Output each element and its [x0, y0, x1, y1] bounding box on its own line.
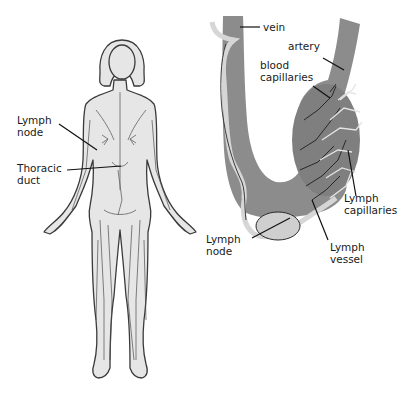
label-line: node	[17, 126, 52, 138]
label-line: Lymph	[344, 192, 397, 204]
label-lymph-capillaries: Lymph capillaries	[344, 192, 397, 216]
label-artery: artery	[288, 40, 320, 52]
label-line: capillaries	[344, 204, 397, 216]
label-line: duct	[17, 174, 62, 186]
label-line: artery	[288, 40, 320, 52]
label-thoracic-duct: Thoracic duct	[17, 162, 62, 186]
diagram-canvas: Lymph node Thoracic duct vein artery blo…	[0, 0, 410, 393]
label-blood-capillaries: blood capillaries	[260, 59, 313, 83]
label-line: Lymph	[206, 233, 241, 245]
label-lymph-vessel: Lymph vessel	[330, 241, 365, 265]
vessel-illustration	[212, 16, 362, 240]
label-line: vein	[263, 21, 285, 33]
label-line: capillaries	[260, 71, 313, 83]
label-line: Thoracic	[17, 162, 62, 174]
label-line: vessel	[330, 253, 365, 265]
label-line: Lymph	[17, 114, 52, 126]
label-line: Lymph	[330, 241, 365, 253]
label-lymph-node-detail: Lymph node	[206, 233, 241, 257]
lymph-node-shape	[256, 212, 300, 240]
label-vein: vein	[263, 21, 285, 33]
label-line: node	[206, 245, 241, 257]
label-line: blood	[260, 59, 313, 71]
label-lymph-node-body: Lymph node	[17, 114, 52, 138]
